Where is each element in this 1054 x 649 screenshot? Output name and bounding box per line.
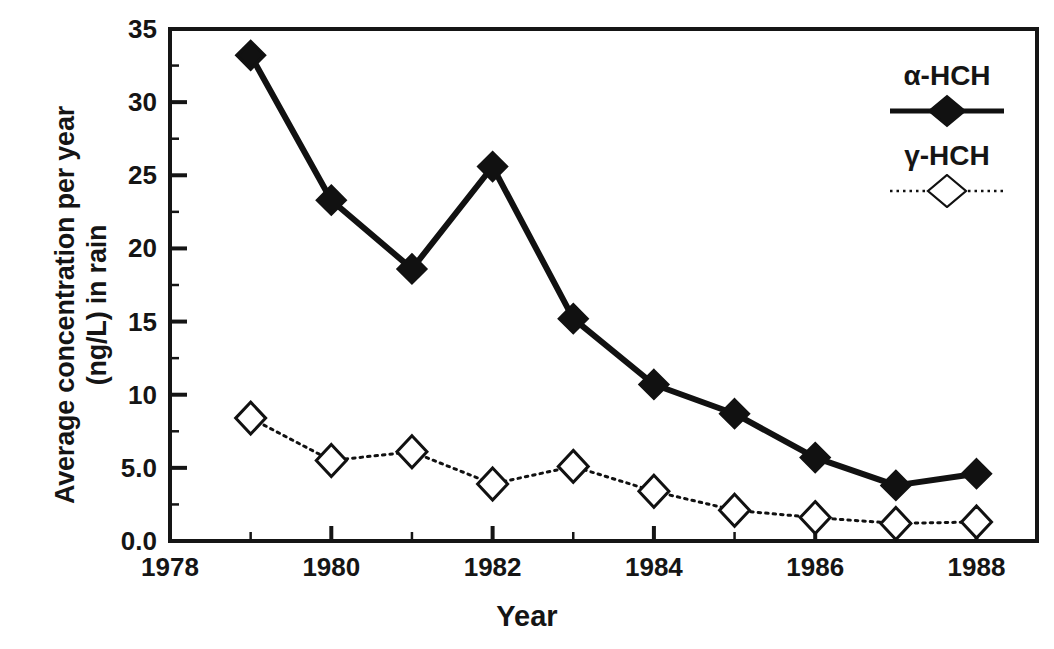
data-point-gamma-1983 bbox=[558, 450, 588, 482]
data-point-gamma-1984 bbox=[639, 475, 669, 507]
legend-sample-alpha-filled-diamond-icon bbox=[862, 94, 1032, 128]
legend-label-alpha: α-HCH bbox=[862, 62, 1032, 90]
data-point-alpha-1987 bbox=[882, 471, 910, 499]
data-point-alpha-1986 bbox=[801, 444, 829, 472]
legend-label-gamma: γ-HCH bbox=[862, 142, 1032, 170]
legend-entry-gamma: γ-HCH bbox=[862, 142, 1032, 208]
data-point-gamma-1986 bbox=[800, 502, 830, 534]
series-line-gamma bbox=[251, 418, 977, 523]
legend-swatch-alpha bbox=[862, 94, 1032, 128]
data-point-gamma-1988 bbox=[962, 506, 992, 538]
legend-sample-gamma-open-diamond-icon bbox=[862, 174, 1032, 208]
data-point-gamma-1987 bbox=[881, 507, 911, 539]
data-point-alpha-1988 bbox=[963, 460, 991, 488]
legend-swatch-gamma bbox=[862, 174, 1032, 208]
legend-entry-alpha: α-HCH bbox=[862, 62, 1032, 128]
chart-figure: Average concentration per year (ng/L) in… bbox=[0, 0, 1054, 649]
data-point-gamma-1985 bbox=[720, 494, 750, 526]
data-point-alpha-1979 bbox=[237, 41, 265, 69]
data-point-gamma-1981 bbox=[397, 436, 427, 468]
data-point-alpha-1985 bbox=[721, 400, 749, 428]
data-point-gamma-1982 bbox=[478, 468, 508, 500]
data-point-gamma-1980 bbox=[316, 445, 346, 477]
data-point-gamma-1979 bbox=[236, 402, 266, 434]
chart-legend: α-HCH γ-HCH bbox=[862, 62, 1032, 222]
